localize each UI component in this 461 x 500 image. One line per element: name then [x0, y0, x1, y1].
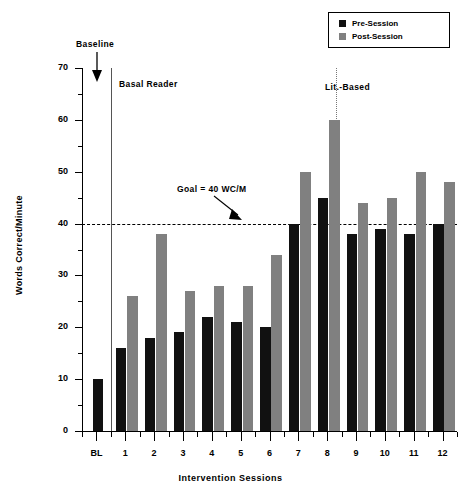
x-tick-major — [125, 432, 126, 441]
x-tick-minor — [342, 432, 343, 437]
bar-pre-session — [404, 234, 415, 431]
y-tick-major — [75, 327, 82, 328]
x-tick-label: 1 — [110, 448, 140, 458]
bar-pre-session — [318, 198, 329, 431]
y-axis-title: Words Correct/Minute — [14, 180, 24, 310]
x-tick-minor — [313, 432, 314, 437]
bar-pre-session — [260, 327, 271, 431]
x-tick-major — [183, 432, 184, 441]
x-axis-title: Intervention Sessions — [0, 473, 461, 483]
bar-post-session — [300, 172, 311, 431]
bar-pre-session — [145, 338, 156, 431]
plot-area — [82, 68, 457, 431]
x-tick-label: 2 — [139, 448, 169, 458]
y-tick-major — [75, 224, 82, 225]
bar-post-session — [127, 296, 138, 431]
bar-post-session — [243, 286, 254, 431]
x-tick-label: BL — [81, 448, 111, 458]
annotation-baseline: Baseline — [76, 39, 114, 49]
y-tick-major — [75, 379, 82, 380]
y-tick-label: 20 — [42, 321, 68, 331]
y-tick-label: 0 — [42, 425, 68, 435]
annotation-goal: Goal = 40 WC/M — [177, 184, 247, 194]
bar-pre-session — [347, 234, 358, 431]
y-tick-label: 30 — [42, 269, 68, 279]
x-tick-minor — [140, 432, 141, 437]
x-tick-label: 11 — [399, 448, 429, 458]
y-tick-label: 50 — [42, 166, 68, 176]
bar-post-session — [416, 172, 427, 431]
x-tick-minor — [399, 432, 400, 437]
bar-post-session — [387, 198, 398, 431]
x-tick-label: 8 — [312, 448, 342, 458]
x-tick-label: 7 — [283, 448, 313, 458]
x-tick-minor — [82, 432, 83, 437]
bar-pre-session — [93, 379, 104, 431]
x-tick-major — [212, 432, 213, 441]
x-tick-major — [241, 432, 242, 441]
legend-item-post-session: Post-Session — [339, 30, 403, 43]
x-tick-minor — [284, 432, 285, 437]
y-tick-label: 40 — [42, 218, 68, 228]
y-tick-label: 10 — [42, 373, 68, 383]
x-tick-major — [298, 432, 299, 441]
bar-post-session — [185, 291, 196, 431]
x-tick-major — [385, 432, 386, 441]
bar-post-session — [156, 234, 167, 431]
annotation-lit-based: Lit.-Based — [325, 82, 370, 92]
x-tick-minor — [428, 432, 429, 437]
bar-pre-session — [202, 317, 213, 431]
legend-label-pre-session: Pre-Session — [352, 19, 398, 28]
bar-post-session — [358, 203, 369, 431]
bar-post-session — [444, 182, 455, 431]
bar-pre-session — [289, 224, 300, 431]
x-tick-label: 5 — [226, 448, 256, 458]
bar-post-session — [271, 255, 282, 431]
x-tick-major — [154, 432, 155, 441]
y-tick-major — [75, 431, 82, 432]
chart-legend: Pre-Session Post-Session — [328, 12, 450, 48]
y-tick-major — [75, 120, 82, 121]
bar-pre-session — [174, 332, 185, 431]
x-tick-label: 3 — [168, 448, 198, 458]
bar-pre-session — [231, 322, 242, 431]
reading-fluency-bar-chart: Pre-Session Post-Session 010203040506070… — [0, 0, 461, 500]
y-tick-major — [75, 172, 82, 173]
x-tick-major — [327, 432, 328, 441]
legend-swatch-pre-session — [339, 20, 346, 27]
bar-post-session — [329, 120, 340, 431]
x-tick-minor — [111, 432, 112, 437]
bar-pre-session — [375, 229, 386, 431]
x-tick-minor — [457, 432, 458, 437]
annotation-basal-reader: Basal Reader — [119, 79, 178, 89]
x-tick-label: 12 — [428, 448, 458, 458]
x-tick-major — [96, 432, 97, 441]
legend-swatch-post-session — [339, 33, 346, 40]
legend-label-post-session: Post-Session — [352, 32, 403, 41]
y-tick-major — [75, 68, 82, 69]
x-tick-minor — [370, 432, 371, 437]
x-tick-major — [356, 432, 357, 441]
x-tick-label: 4 — [197, 448, 227, 458]
x-tick-label: 10 — [370, 448, 400, 458]
x-tick-minor — [197, 432, 198, 437]
x-tick-label: 9 — [341, 448, 371, 458]
x-tick-minor — [255, 432, 256, 437]
x-tick-major — [414, 432, 415, 441]
bar-pre-session — [116, 348, 127, 431]
bar-pre-session — [433, 224, 444, 431]
y-tick-major — [75, 275, 82, 276]
legend-item-pre-session: Pre-Session — [339, 17, 398, 30]
x-tick-minor — [169, 432, 170, 437]
x-tick-major — [270, 432, 271, 441]
bar-post-session — [214, 286, 225, 431]
x-tick-label: 6 — [255, 448, 285, 458]
y-tick-label: 60 — [42, 114, 68, 124]
x-tick-major — [443, 432, 444, 441]
y-tick-label: 70 — [42, 62, 68, 72]
x-tick-minor — [226, 432, 227, 437]
